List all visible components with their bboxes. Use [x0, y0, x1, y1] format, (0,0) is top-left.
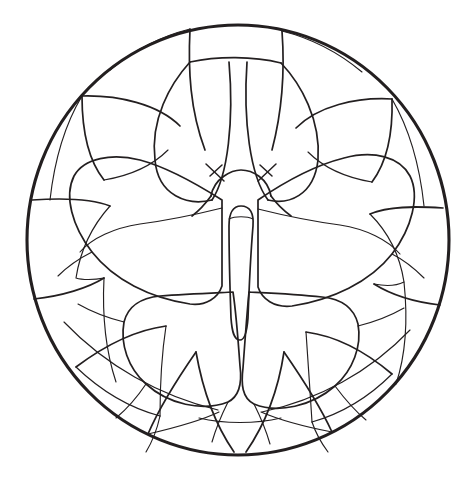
butterfly-mandala-illustration: Butterfly Mandala Stained Glass Pattern …	[0, 0, 474, 478]
artboard: Butterfly Mandala Stained Glass Pattern …	[0, 0, 474, 478]
